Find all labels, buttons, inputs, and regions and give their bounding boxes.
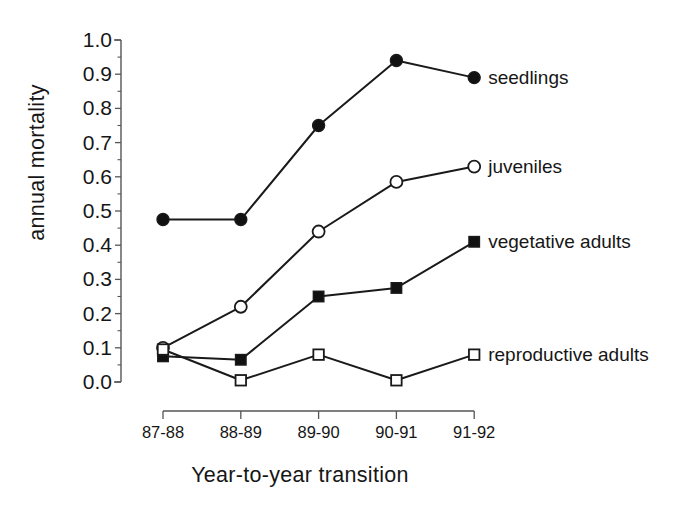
y-tick-label: 0.7 bbox=[56, 132, 112, 153]
series-label-juveniles: juveniles bbox=[488, 157, 562, 176]
y-tick-label: 1.0 bbox=[56, 29, 112, 50]
x-axis-title: Year-to-year transition bbox=[120, 463, 480, 488]
y-tick-label: 0.5 bbox=[56, 200, 112, 221]
x-tick-label: 90-91 bbox=[351, 424, 441, 441]
y-tick-label: 0.9 bbox=[56, 63, 112, 84]
x-tick-label: 87-88 bbox=[118, 424, 208, 441]
y-tick-label: 0.4 bbox=[56, 234, 112, 255]
y-tick-label: 0.6 bbox=[56, 166, 112, 187]
x-tick-label: 91-92 bbox=[429, 424, 519, 441]
y-tick-label: 0.3 bbox=[56, 268, 112, 289]
chart-figure: 0.00.10.20.30.40.50.60.70.80.91.0 87-888… bbox=[0, 0, 695, 523]
x-tick-label: 89-90 bbox=[274, 424, 364, 441]
x-tick-label: 88-89 bbox=[196, 424, 286, 441]
y-tick-label: 0.1 bbox=[56, 337, 112, 358]
data-series bbox=[157, 55, 480, 386]
axes bbox=[114, 40, 121, 382]
series-label-vegetative-adults: vegetative adults bbox=[488, 232, 631, 251]
series-label-seedlings: seedlings bbox=[488, 68, 568, 87]
y-axis-title: annual mortality bbox=[25, 48, 50, 278]
y-tick-label: 0.2 bbox=[56, 303, 112, 324]
x-axis-bracket bbox=[163, 411, 474, 419]
y-tick-label: 0.8 bbox=[56, 97, 112, 118]
y-tick-label: 0.0 bbox=[56, 371, 112, 392]
series-label-reproductive-adults: reproductive adults bbox=[488, 345, 649, 364]
